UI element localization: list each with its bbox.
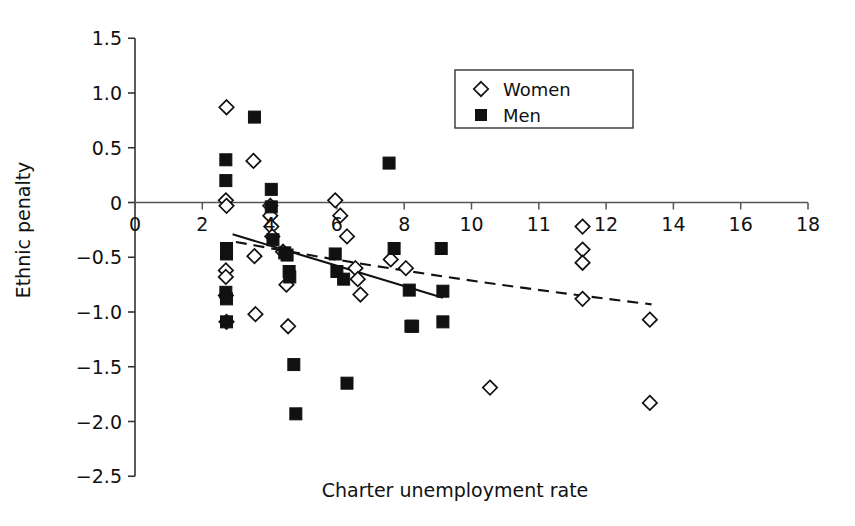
data-point-men [288, 359, 300, 371]
data-point-men [221, 316, 233, 328]
y-tick-label-2: 0.5 [92, 137, 122, 159]
scatter-plot-figure: 1.51.00.50−0.5−1.0−1.5−2.0−2.50246810111… [0, 0, 855, 526]
data-point-women [483, 380, 497, 394]
data-point-men [281, 249, 293, 261]
data-point-men [403, 284, 415, 296]
x-tick-label-4: 8 [398, 213, 410, 235]
data-point-men [437, 316, 449, 328]
x-tick-label-2: 4 [264, 213, 276, 235]
plot-canvas: 1.51.00.50−0.5−1.0−1.5−2.0−2.50246810111… [0, 0, 855, 526]
data-point-women [643, 312, 657, 326]
x-axis-title: Charter unemployment rate [322, 479, 589, 501]
data-points-layer [219, 100, 657, 420]
y-tick-label-4: −0.5 [76, 246, 122, 268]
data-point-men [267, 234, 279, 246]
x-tick-label-9: 16 [729, 213, 753, 235]
data-point-women [248, 307, 262, 321]
data-point-men [265, 183, 277, 195]
x-tick-label-5: 10 [459, 213, 483, 235]
x-tick-label-8: 14 [661, 213, 685, 235]
data-point-women [281, 319, 295, 333]
y-tick-label-8: −2.5 [76, 465, 122, 487]
x-tick-label-6: 11 [527, 213, 551, 235]
x-tick-label-3: 6 [331, 213, 343, 235]
data-point-women [575, 292, 589, 306]
y-tick-label-3: 0 [110, 192, 122, 214]
data-point-men [341, 377, 353, 389]
y-tick-label-5: −1.0 [76, 301, 122, 323]
data-point-men [437, 285, 449, 297]
data-point-men [265, 201, 277, 213]
data-point-women [399, 261, 413, 275]
data-point-men [248, 111, 260, 123]
data-point-women [643, 396, 657, 410]
data-point-men [383, 157, 395, 169]
data-point-women [246, 154, 260, 168]
data-point-women [247, 249, 261, 263]
data-point-women [219, 100, 233, 114]
data-point-men [220, 154, 232, 166]
data-point-men [435, 242, 447, 254]
legend-label-women: Women [503, 79, 571, 100]
y-tick-label-7: −2.0 [76, 411, 122, 433]
data-point-men [329, 248, 341, 260]
x-tick-label-0: 0 [129, 213, 141, 235]
data-point-women [353, 287, 367, 301]
data-point-men [220, 175, 232, 187]
y-tick-label-0: 1.5 [92, 27, 122, 49]
x-tick-label-10: 18 [796, 213, 820, 235]
data-point-women [575, 256, 589, 270]
x-tick-label-1: 2 [196, 213, 208, 235]
y-tick-label-6: −1.5 [76, 356, 122, 378]
data-point-men [221, 293, 233, 305]
data-point-men [221, 248, 233, 260]
data-point-women [328, 193, 342, 207]
legend-marker-men [475, 109, 487, 121]
y-tick-label-1: 1.0 [92, 82, 122, 104]
data-point-men [284, 271, 296, 283]
data-point-men [407, 320, 419, 332]
legend-label-men: Men [503, 105, 541, 126]
data-point-men [388, 242, 400, 254]
data-point-men [290, 408, 302, 420]
data-point-men [338, 273, 350, 285]
y-axis-title: Ethnic penalty [12, 162, 34, 299]
data-point-women [575, 219, 589, 233]
axis-labels-layer: 1.51.00.50−0.5−1.0−1.5−2.0−2.50246810111… [12, 27, 820, 501]
legend-box: WomenMen [455, 70, 633, 128]
x-tick-label-7: 12 [594, 213, 618, 235]
